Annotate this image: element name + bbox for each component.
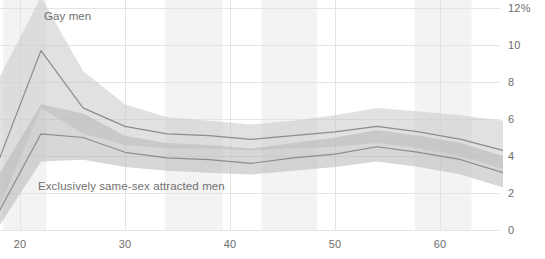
series-label-exclusively-same-sex-attracted-men: Exclusively same-sex attracted men [38, 180, 225, 192]
y-axis-tick-8: 8 [508, 76, 514, 88]
y-axis-tick-10: 10 [508, 39, 521, 51]
x-axis-tick-50: 50 [329, 238, 342, 250]
y-axis-tick-2: 2 [508, 187, 514, 199]
x-axis-tick-40: 40 [224, 238, 237, 250]
x-shade-band-1 [165, 0, 223, 230]
y-axis-tick-6: 6 [508, 113, 514, 125]
y-axis-tick-0: 0 [508, 224, 514, 236]
x-axis-tick-60: 60 [434, 238, 447, 250]
series-label-gay-men: Gay men [44, 10, 91, 22]
x-shade-band-2 [262, 0, 318, 230]
x-axis-tick-20: 20 [14, 238, 27, 250]
x-axis-tick-30: 30 [119, 238, 132, 250]
y-axis-tick-4: 4 [508, 150, 514, 162]
chart-container: 12% 10 8 6 4 2 0 20 30 40 50 60 Gay men … [0, 0, 545, 259]
line-chart-plot [0, 0, 545, 259]
y-axis-tick-12: 12% [508, 2, 531, 14]
